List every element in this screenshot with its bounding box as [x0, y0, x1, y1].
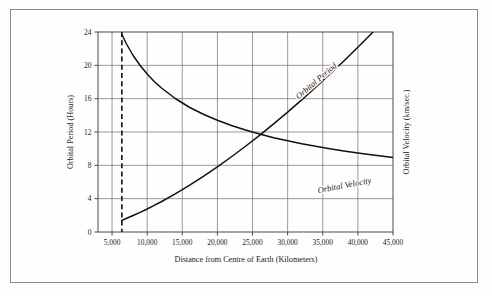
x-tick-labels: 5,00010,00015,00020,00025,00030,00035,00… [104, 238, 404, 247]
x-tick-label: 30,000 [277, 238, 298, 247]
y-tick-label: 8 [88, 161, 92, 170]
curve-label-orbital-period: Orbital Period [294, 60, 339, 101]
y-tick-label: 16 [84, 94, 92, 103]
x-tick-label: 15,000 [172, 238, 193, 247]
y-axis-title: Orbital Period (Hours) [66, 95, 75, 169]
curve-orbital-period [122, 9, 393, 220]
y-tick-labels: 04812162024 [84, 28, 92, 237]
orbital-chart: 5,00010,00015,00020,00025,00030,00035,00… [0, 0, 492, 296]
y-tick-label: 0 [88, 228, 92, 237]
x-tick-label: 25,000 [242, 238, 263, 247]
grid-lines [98, 32, 393, 232]
tick-marks [95, 32, 394, 236]
data-curves [122, 9, 393, 220]
y-tick-label: 20 [84, 61, 92, 70]
x-tick-label: 20,000 [207, 238, 228, 247]
x-axis-title: Distance from Centre of Earth (Kilometer… [174, 255, 317, 264]
curve-labels: Orbital PeriodOrbital Velocity [294, 60, 373, 195]
x-tick-label: 40,000 [348, 238, 369, 247]
x-tick-label: 5,000 [104, 238, 121, 247]
x-tick-label: 45,000 [383, 238, 404, 247]
x-tick-label: 10,000 [137, 238, 158, 247]
y2-axis-title: Orbital Velocity (km/sec.) [402, 89, 411, 174]
curve-label-orbital-velocity: Orbital Velocity [317, 175, 373, 195]
y-tick-label: 12 [84, 128, 92, 137]
x-tick-label: 35,000 [313, 238, 334, 247]
figure-root: 5,00010,00015,00020,00025,00030,00035,00… [0, 0, 492, 296]
y-tick-label: 4 [88, 194, 92, 203]
y-tick-label: 24 [84, 28, 92, 37]
